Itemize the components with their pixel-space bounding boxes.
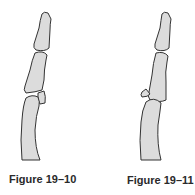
- middle-phalanx: [24, 52, 47, 93]
- figure-caption: Figure 19–11: [127, 174, 194, 186]
- figure-caption: Figure 19–10: [9, 173, 76, 185]
- fracture-fragment: [141, 89, 150, 97]
- middle-phalanx: [148, 52, 168, 101]
- figure-19-10: Figure 19–10: [0, 0, 100, 195]
- distal-phalanx: [155, 12, 171, 50]
- figure-19-11: Figure 19–11: [100, 0, 195, 195]
- proximal-phalanx: [21, 96, 40, 160]
- distal-phalanx: [34, 12, 51, 50]
- finger-bones-illustration-left: [0, 0, 100, 170]
- finger-bones-illustration-right: [100, 0, 195, 170]
- proximal-phalanx: [140, 99, 161, 160]
